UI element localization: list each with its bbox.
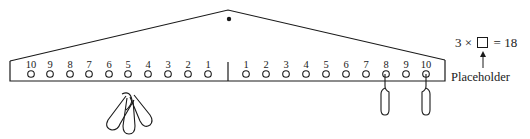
peg-label: 3 [283,59,288,70]
peg-label: 3 [165,59,170,70]
pivot-dot [227,17,231,21]
peg-hole-icon [205,71,212,78]
peg-hole-icon [145,71,152,78]
peg-label: 4 [145,59,151,70]
weight-right-8 [381,74,389,115]
peg-label: 10 [26,59,37,70]
peg-label: 5 [125,59,130,70]
peg-label: 9 [47,59,52,70]
peg-label: 1 [205,59,210,70]
peg-hole-icon [263,71,270,78]
times-symbol: × [465,35,472,50]
peg-label: 7 [86,59,91,70]
peg-hole-icon [28,71,35,78]
placeholder-label: Placeholder [451,70,510,85]
peg-hole-icon [67,71,74,78]
weight-right-10 [422,74,430,115]
left-arm: 10987654321 [26,59,212,77]
peg-hole-icon [185,71,192,78]
peg-hole-icon [363,71,370,78]
peg-hole-icon [47,71,54,78]
peg-label: 4 [303,59,309,70]
equation: 3 × = 18 [455,35,517,51]
weight-cluster-left [107,93,152,134]
peg-hole-icon [243,71,250,78]
peg-label: 2 [263,59,268,70]
peg-label: 8 [67,59,72,70]
peg-hole-icon [86,71,93,78]
peg-label: 1 [243,59,248,70]
equation-left: 3 [455,35,462,50]
placeholder-box-icon [477,37,488,48]
peg-hole-icon [403,71,410,78]
peg-label: 10 [421,59,432,70]
peg-hole-icon [383,71,390,78]
right-arm: 12345678910 [243,59,432,77]
peg-hole-icon [303,71,310,78]
peg-label: 5 [323,59,328,70]
peg-label: 2 [185,59,190,70]
peg-hole-icon [106,71,113,78]
equals-symbol: = [494,35,501,50]
peg-label: 6 [343,59,348,70]
peg-hole-icon [343,71,350,78]
peg-hole-icon [165,71,172,78]
peg-label: 7 [363,59,368,70]
peg-hole-icon [323,71,330,78]
peg-label: 9 [403,59,408,70]
equation-right: 18 [504,35,517,50]
peg-hole-icon [283,71,290,78]
peg-label: 8 [383,59,388,70]
peg-hole-icon [125,71,132,78]
peg-label: 6 [106,59,111,70]
